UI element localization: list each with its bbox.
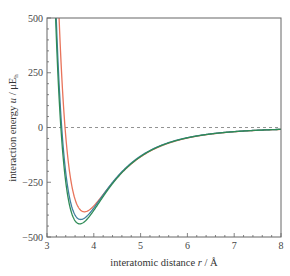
- y-tick-label: 500: [28, 13, 43, 24]
- curves: [47, 0, 281, 224]
- curve-green-curve: [47, 0, 281, 224]
- x-tick-label: 3: [45, 240, 50, 251]
- curve-red-curve: [47, 0, 281, 212]
- y-axis-label: interaction energy u / μEh: [7, 74, 20, 182]
- x-axis-label: interatomic distance r / Å: [110, 257, 218, 268]
- x-tick-label: 6: [185, 240, 190, 251]
- curve-blue-curve: [47, 0, 281, 219]
- x-tick-label: 5: [138, 240, 143, 251]
- y-tick-label: −250: [22, 177, 43, 188]
- y-tick-label: 250: [28, 67, 43, 78]
- x-tick-label: 4: [91, 240, 96, 251]
- x-tick-label: 8: [279, 240, 284, 251]
- y-tick-label: 0: [38, 122, 43, 133]
- y-tick-label: −500: [22, 232, 43, 243]
- potential-energy-chart: 3456785002500−250−500 interatomic distan…: [0, 0, 290, 276]
- x-tick-label: 7: [232, 240, 237, 251]
